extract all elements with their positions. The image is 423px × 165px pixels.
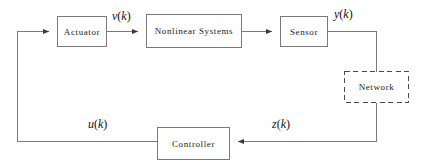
block-label-network: Network [359, 82, 395, 92]
signal-label-zk: z(k) [272, 118, 290, 130]
signal-label-uk: u(k) [88, 118, 107, 130]
signal-label-yk: y(k) [334, 8, 353, 20]
block-label-nonlinear-systems: Nonlinear Systems [155, 26, 233, 36]
block-actuator[interactable]: Actuator [57, 16, 107, 47]
signal-paren-close-vk: ) [127, 9, 131, 23]
block-label-sensor: Sensor [290, 27, 318, 37]
block-controller[interactable]: Controller [157, 127, 230, 160]
link-network-to-controller [238, 103, 377, 142]
signal-label-vk: v(k) [112, 10, 131, 22]
block-diagram: Actuator Nonlinear Systems Sensor Networ… [0, 0, 423, 165]
block-label-controller: Controller [172, 139, 215, 149]
block-network[interactable]: Network [344, 71, 409, 103]
block-nonlinear-systems[interactable]: Nonlinear Systems [146, 14, 242, 48]
link-sensor-to-network [328, 32, 377, 72]
block-label-actuator: Actuator [64, 27, 100, 37]
block-sensor[interactable]: Sensor [280, 16, 328, 47]
signal-paren-close-zk: ) [286, 117, 290, 131]
signal-paren-close-yk: ) [349, 7, 353, 21]
signal-paren-close-uk: ) [103, 117, 107, 131]
